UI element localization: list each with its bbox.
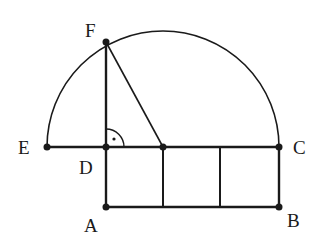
label-c: C <box>293 137 306 158</box>
label-a: A <box>84 215 98 236</box>
geometry-diagram: F E D C A B <box>0 0 319 244</box>
label-d: D <box>79 157 93 178</box>
point-center <box>160 144 167 151</box>
point-e <box>44 144 51 151</box>
semicircle-arc <box>47 31 279 147</box>
point-b <box>276 204 283 211</box>
label-e: E <box>18 137 30 158</box>
point-a <box>103 204 110 211</box>
right-angle-dot <box>112 137 115 140</box>
point-f <box>103 39 110 46</box>
point-d <box>103 144 110 151</box>
label-f: F <box>85 20 96 41</box>
point-c <box>276 144 283 151</box>
label-b: B <box>287 210 300 231</box>
